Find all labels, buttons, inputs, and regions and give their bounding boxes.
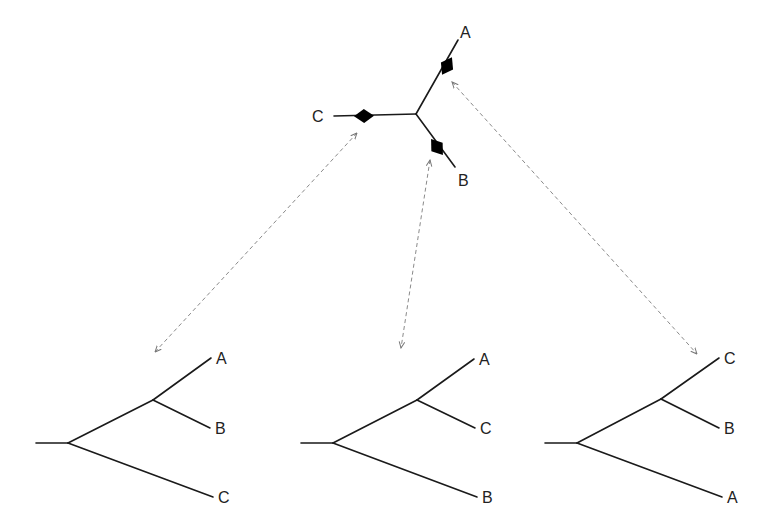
root-position-marker-b	[425, 135, 448, 159]
root-position-arrows	[155, 82, 697, 354]
tip-branch-a	[417, 359, 474, 400]
internal-branch	[68, 400, 153, 443]
taxon-label-a: A	[460, 24, 471, 41]
rooted-tree-1: ABC	[36, 350, 230, 506]
taxon-label-a: A	[479, 351, 490, 368]
taxon-label-c: C	[218, 489, 230, 506]
internal-branch	[577, 399, 661, 443]
tip-branch-c	[417, 400, 475, 428]
taxon-label-b: B	[724, 420, 735, 437]
taxon-label-c: C	[480, 420, 492, 437]
tip-branch-b	[333, 443, 477, 497]
rooted-tree-2: ACB	[301, 351, 493, 506]
taxon-label-b: B	[482, 489, 493, 506]
rooted-tree-3: CBA	[545, 350, 738, 506]
unrooted-branch-c	[334, 114, 416, 116]
taxon-label-c: C	[724, 350, 736, 367]
unrooted-tree: ABC	[312, 24, 471, 189]
taxon-label-b: B	[215, 420, 226, 437]
root-position-marker-c	[354, 109, 374, 123]
internal-branch	[333, 400, 417, 443]
taxon-label-a: A	[727, 489, 738, 506]
unrooted-branch-a	[416, 40, 458, 114]
taxon-label-a: A	[216, 350, 227, 367]
taxon-label-b: B	[458, 172, 469, 189]
tip-branch-a	[153, 358, 211, 400]
tip-branch-c	[661, 358, 719, 399]
dashed-arrow-3	[452, 82, 697, 354]
taxon-label-c: C	[312, 108, 324, 125]
phylogeny-diagram: ABC ABCACBCBA	[0, 0, 764, 532]
tip-branch-b	[661, 399, 719, 428]
tip-branch-b	[153, 400, 210, 428]
tip-branch-a	[577, 443, 722, 497]
rooted-trees: ABCACBCBA	[36, 350, 738, 506]
dashed-arrow-1	[155, 133, 357, 352]
tip-branch-c	[68, 443, 213, 497]
dashed-arrow-2	[401, 160, 430, 348]
